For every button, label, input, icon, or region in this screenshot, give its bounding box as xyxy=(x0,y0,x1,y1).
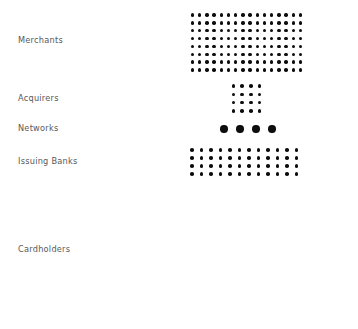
dot xyxy=(227,29,230,32)
dot xyxy=(205,21,208,24)
dot xyxy=(292,60,295,63)
dot xyxy=(228,148,232,152)
dot xyxy=(284,53,287,56)
dot xyxy=(198,21,201,24)
diagram-canvas: Merchants Acquirers Networks Issuing Ban… xyxy=(0,0,358,329)
dot xyxy=(200,164,204,168)
dot-matrix-networks xyxy=(216,123,280,135)
dot xyxy=(256,60,259,63)
dot xyxy=(284,29,287,32)
dot xyxy=(200,172,204,176)
dot xyxy=(299,21,302,24)
dot xyxy=(191,29,194,32)
dot xyxy=(295,164,299,168)
dot xyxy=(220,21,223,24)
dot xyxy=(299,13,302,16)
dot xyxy=(240,93,244,97)
dot xyxy=(232,101,236,105)
dot xyxy=(220,37,223,40)
dot xyxy=(295,148,299,152)
dot xyxy=(258,93,262,97)
dot xyxy=(277,53,280,56)
dot xyxy=(220,68,223,71)
dot xyxy=(284,60,287,63)
row-label-merchants: Merchants xyxy=(18,35,63,45)
dot xyxy=(232,109,236,113)
dot xyxy=(292,21,295,24)
dot xyxy=(284,45,287,48)
dot xyxy=(227,13,230,16)
dot xyxy=(285,172,289,176)
dot xyxy=(270,13,273,16)
dot xyxy=(263,53,266,56)
dot xyxy=(292,45,295,48)
dot xyxy=(234,37,237,40)
dot xyxy=(234,29,237,32)
dot xyxy=(277,45,280,48)
dot xyxy=(212,68,215,71)
dot xyxy=(238,156,242,160)
dot xyxy=(220,29,223,32)
dot xyxy=(256,13,259,16)
dot xyxy=(238,164,242,168)
dot xyxy=(236,125,243,132)
dot xyxy=(241,60,244,63)
dot xyxy=(249,109,253,113)
dot xyxy=(270,53,273,56)
dot xyxy=(200,156,204,160)
dot xyxy=(284,21,287,24)
dot xyxy=(252,125,259,132)
row-label-cardholders: Cardholders xyxy=(18,244,70,254)
dot xyxy=(277,60,280,63)
dot xyxy=(263,37,266,40)
dot xyxy=(234,53,237,56)
dot xyxy=(256,37,259,40)
dot xyxy=(212,45,215,48)
dot xyxy=(220,125,227,132)
dot xyxy=(257,164,261,168)
dot xyxy=(295,172,299,176)
dot xyxy=(247,156,251,160)
dot xyxy=(270,21,273,24)
dot xyxy=(270,37,273,40)
dot xyxy=(257,156,261,160)
dot xyxy=(256,53,259,56)
dot xyxy=(212,21,215,24)
dot xyxy=(257,172,261,176)
dot xyxy=(209,156,213,160)
dot xyxy=(266,148,270,152)
dot xyxy=(227,68,230,71)
dot xyxy=(190,148,194,152)
dot xyxy=(256,21,259,24)
dot xyxy=(241,29,244,32)
dot xyxy=(247,164,251,168)
dot xyxy=(263,13,266,16)
dot xyxy=(228,156,232,160)
dot xyxy=(205,29,208,32)
dot xyxy=(258,101,262,105)
dot xyxy=(191,37,194,40)
dot xyxy=(198,45,201,48)
dot xyxy=(209,164,213,168)
dot xyxy=(191,53,194,56)
dot xyxy=(241,37,244,40)
dot xyxy=(198,53,201,56)
dot xyxy=(249,84,253,88)
dot-matrix-cardholders xyxy=(155,196,336,313)
dot xyxy=(277,21,280,24)
dot xyxy=(258,109,262,113)
dot xyxy=(227,53,230,56)
row-label-acquirers: Acquirers xyxy=(18,93,59,103)
dot xyxy=(248,37,251,40)
dot xyxy=(205,45,208,48)
dot xyxy=(284,68,287,71)
dot xyxy=(241,53,244,56)
dot xyxy=(295,156,299,160)
dot xyxy=(219,172,223,176)
dot xyxy=(190,156,194,160)
dot xyxy=(248,45,251,48)
dot xyxy=(263,45,266,48)
dot xyxy=(276,156,280,160)
dot xyxy=(248,68,251,71)
dot xyxy=(292,37,295,40)
